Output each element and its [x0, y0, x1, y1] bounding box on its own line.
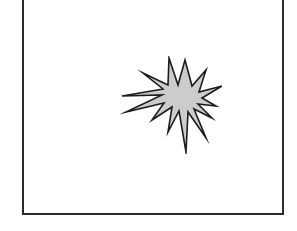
figure-border-frame	[22, 0, 284, 215]
starburst-polygon	[122, 58, 222, 152]
figure-canvas	[0, 0, 297, 231]
starburst-icon	[120, 56, 222, 154]
starburst-shape	[120, 56, 222, 154]
